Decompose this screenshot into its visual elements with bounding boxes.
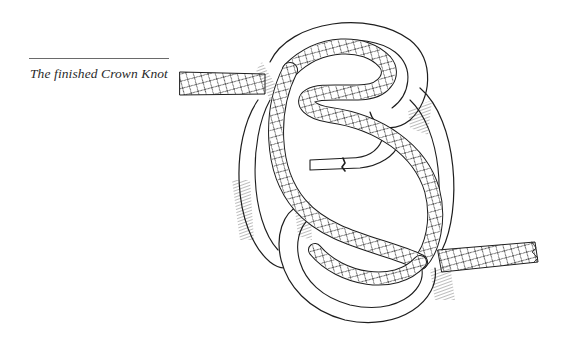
rope-right-end: [438, 242, 538, 272]
rope-left-end: [180, 72, 265, 95]
figure-caption: The finished Crown Knot: [30, 66, 168, 82]
crown-knot-illustration: [170, 0, 550, 345]
caption-rule: [29, 58, 169, 59]
